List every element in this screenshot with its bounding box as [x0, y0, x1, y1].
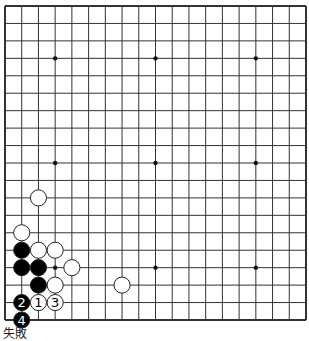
- white-stone: [14, 225, 30, 241]
- black-stone: 2: [14, 294, 30, 310]
- black-stone: 4: [14, 312, 30, 328]
- move-number: 1: [34, 295, 42, 310]
- white-stone: [47, 277, 63, 293]
- star-point: [254, 56, 258, 60]
- star-point: [254, 265, 258, 269]
- move-number: 4: [18, 313, 26, 328]
- black-stone: [30, 260, 46, 276]
- black-stone: [30, 277, 46, 293]
- star-point: [153, 56, 157, 60]
- white-stone: 3: [47, 294, 63, 310]
- star-point: [53, 161, 57, 165]
- white-stone: [30, 190, 46, 206]
- go-board: 2134: [0, 0, 309, 341]
- diagram-caption: 失敗: [3, 327, 27, 341]
- black-stone: [14, 260, 30, 276]
- white-stone: [64, 260, 80, 276]
- white-stone: [47, 242, 63, 258]
- move-number: 3: [51, 295, 59, 310]
- star-point: [153, 265, 157, 269]
- star-point: [53, 56, 57, 60]
- white-stone: [114, 277, 130, 293]
- star-point: [53, 265, 57, 269]
- white-stone: [30, 242, 46, 258]
- black-stone: [14, 242, 30, 258]
- star-point: [153, 161, 157, 165]
- star-point: [254, 161, 258, 165]
- white-stone: 1: [30, 294, 46, 310]
- move-number: 2: [18, 295, 26, 310]
